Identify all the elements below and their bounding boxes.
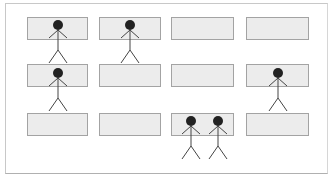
diagram-stage <box>0 0 331 181</box>
figure-head <box>53 68 63 78</box>
box-r2c2 <box>100 65 161 87</box>
box-r1c4 <box>247 18 309 40</box>
stick-figures <box>49 20 287 159</box>
figure-head <box>273 68 283 78</box>
box-r3c4 <box>247 114 309 136</box>
box-grid <box>28 18 309 136</box>
box-r1c3 <box>172 18 234 40</box>
box-r3c2 <box>100 114 161 136</box>
figure-head <box>53 20 63 30</box>
figure-head <box>213 116 223 126</box>
box-r3c1 <box>28 114 88 136</box>
box-r2c3 <box>172 65 234 87</box>
figure-head <box>125 20 135 30</box>
box-r3c3 <box>172 114 234 136</box>
diagram-canvas <box>0 0 331 181</box>
figure-head <box>186 116 196 126</box>
